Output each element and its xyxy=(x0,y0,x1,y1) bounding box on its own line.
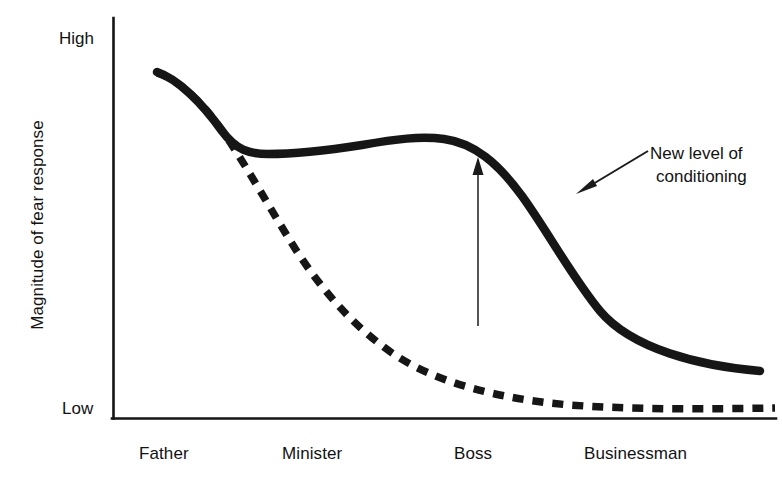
gain-arrow-icon xyxy=(473,157,484,326)
x-axis-tick-father: Father xyxy=(139,444,189,464)
series-solid-new-conditioning xyxy=(157,72,760,371)
y-axis-low-label: Low xyxy=(62,399,93,419)
y-axis-high-label: High xyxy=(59,29,94,49)
x-axis-tick-businessman: Businessman xyxy=(584,444,687,464)
fear-response-chart-figure: Magnitude of fear response High Low Fath… xyxy=(0,0,782,491)
chart-canvas xyxy=(0,0,782,491)
x-axis-tick-minister: Minister xyxy=(282,444,342,464)
x-axis-tick-boss: Boss xyxy=(454,444,492,464)
y-axis-title: Magnitude of fear response xyxy=(28,95,48,355)
callout-label-line-1: New level of xyxy=(650,144,743,164)
callout-label-line-2: conditioning xyxy=(656,167,747,187)
callout-arrow-icon xyxy=(576,151,648,194)
